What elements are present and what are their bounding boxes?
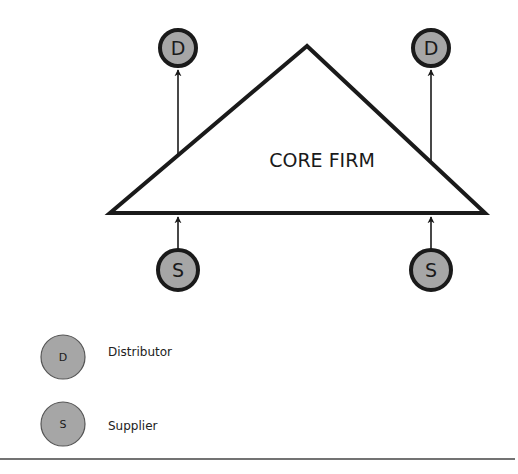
legend-item-supplier: S Supplier <box>41 402 158 446</box>
legend-item-distributor: D Distributor <box>41 335 172 379</box>
distributor-letter: D <box>171 37 186 59</box>
legend-distributor-label: Distributor <box>108 345 172 359</box>
supply-chain-diagram: CORE FIRM D D S S D Distributor S Suppli… <box>0 0 518 474</box>
supplier-letter: S <box>425 259 437 281</box>
core-firm-triangle: CORE FIRM <box>110 46 485 213</box>
legend-supplier-letter: S <box>60 418 67 431</box>
supplier-node-left: S <box>158 250 198 290</box>
distributor-node-right: D <box>413 30 449 66</box>
legend-distributor-letter: D <box>59 351 67 364</box>
supplier-node-right: S <box>411 250 451 290</box>
supplier-letter: S <box>172 259 184 281</box>
legend-supplier-label: Supplier <box>108 419 158 433</box>
distributor-letter: D <box>424 37 439 59</box>
core-firm-label: CORE FIRM <box>269 149 375 171</box>
distributor-node-left: D <box>160 30 196 66</box>
legend: D Distributor S Supplier <box>41 335 172 446</box>
